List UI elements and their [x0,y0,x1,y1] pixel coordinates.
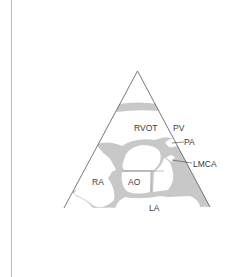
label-lmca: LMCA [193,159,217,169]
label-la: LA [149,203,160,213]
echo-sector-diagram: RVOT PV PA LMCA RA AO LA [0,0,251,277]
label-rvot: RVOT [134,123,157,133]
label-pa: PA [184,137,195,147]
label-ao: AO [128,177,141,187]
label-ra: RA [92,177,104,187]
label-pv: PV [173,123,185,133]
